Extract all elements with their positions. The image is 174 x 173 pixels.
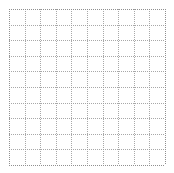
dotted-grid — [9, 9, 165, 165]
plot-area — [9, 9, 165, 165]
figure-canvas — [0, 0, 174, 173]
horizontal-grid-lines — [9, 10, 165, 166]
